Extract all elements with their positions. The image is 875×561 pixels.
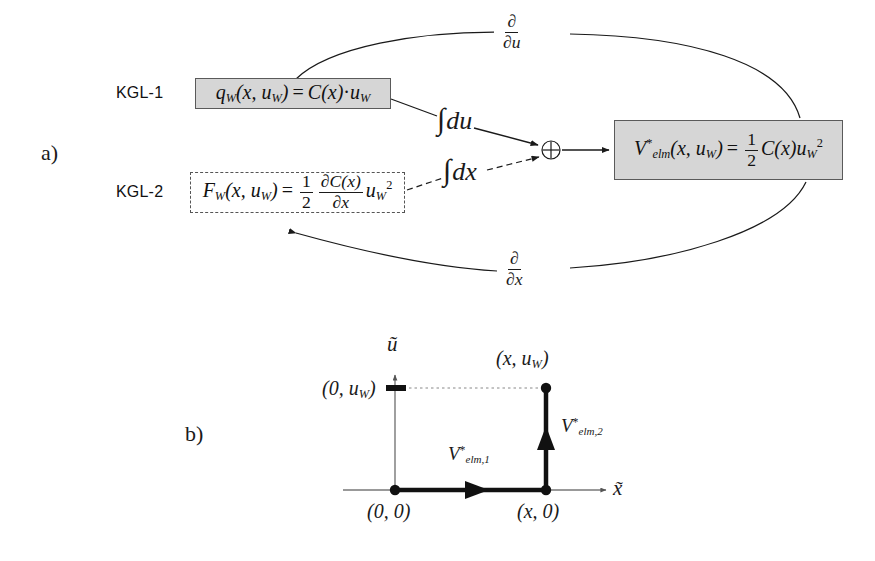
charge-equation-text: qW(x, uW) = C(x)·uW [216,82,371,105]
partial-derivative-x-label: ∂∂x [501,250,528,288]
figure-canvas: a) b) KGL-1 KGL-2 qW(x, uW) = C(x)·uW FW… [0,0,875,561]
curve-velm-to-dx [570,182,806,268]
axis-label-u: ũ [387,332,398,357]
coenergy-equation-text: V*elm(x, uW) = 12C(x)uW2 [634,131,823,169]
panel-label-b: b) [185,421,203,447]
line-kgl1-to-intdu [391,99,437,116]
partial-num-u: ∂ [505,13,518,33]
label-segment-1: V*elm,1 [448,443,490,465]
row-tag-kgl-2: KGL-2 [116,183,163,201]
partial-num-x: ∂ [508,250,521,270]
path-segment-2-arrowhead [537,426,555,450]
integral-du-label: ∫du [437,104,472,134]
partial-derivative-u-label: ∂∂u [498,13,526,51]
row-tag-kgl-1: KGL-1 [116,84,163,102]
line-kgl2-to-intdx [407,178,443,190]
integral-dx-label: ∫dx [443,155,477,185]
label-point-x-0: (x, 0) [517,500,559,523]
arrow-intdu-to-sum [474,128,538,145]
partial-den-u: ∂u [501,33,523,52]
force-equation-text: FW(x, uW) = 12∂C(x)∂xuW2 [203,173,393,211]
arrow-dx-to-kgl2 [296,233,497,271]
partial-den-x: ∂x [504,270,525,289]
axis-label-x: x̃ [613,476,622,501]
node-origin [390,485,400,495]
integral-sign-du: ∫ [437,102,446,135]
differential-dx: dx [452,157,477,186]
force-equation-box[interactable]: FW(x, uW) = 12∂C(x)∂xuW2 [190,172,405,213]
arrow-intdx-to-sum [487,157,539,170]
charge-equation-box[interactable]: qW(x, uW) = C(x)·uW [195,78,391,109]
integral-sign-dx: ∫ [443,153,452,186]
differential-du: du [446,106,472,135]
coenergy-equation-box[interactable]: V*elm(x, uW) = 12C(x)uW2 [614,120,843,180]
label-point-0-uw: (0, uW) [322,377,376,402]
arrow-du-to-kgl1 [296,32,494,79]
label-point-x-uw: (x, uW) [496,347,549,372]
curve-velm-to-du [570,34,800,118]
node-x-0 [541,485,551,495]
label-point-origin: (0, 0) [367,500,410,523]
node-x-uw [541,383,551,393]
label-segment-2: V*elm,2 [561,415,603,437]
path-segment-1-arrowhead [465,481,489,499]
summation-node [540,139,562,161]
panel-label-a: a) [41,140,58,166]
